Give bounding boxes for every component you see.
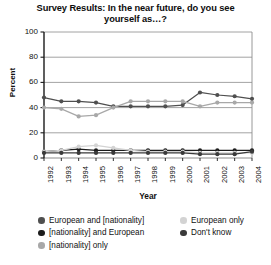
x-tick-label: 1995 bbox=[99, 166, 107, 183]
legend-column-right: European onlyDon't know bbox=[180, 214, 244, 239]
legend-column-left: European and [nationality][nationality] … bbox=[38, 214, 144, 252]
legend-item[interactable]: Don't know bbox=[180, 227, 244, 240]
x-axis-label: Year bbox=[44, 191, 252, 201]
chart-legend: European and [nationality][nationality] … bbox=[0, 214, 271, 262]
x-tick-label: 1994 bbox=[82, 166, 90, 183]
x-tick-label: 2002 bbox=[221, 166, 229, 183]
x-tick-label: 2003 bbox=[238, 166, 246, 183]
x-tick-label: 2000 bbox=[186, 166, 194, 183]
legend-item-label: European and [nationality] bbox=[49, 216, 144, 225]
x-tick-label: 1999 bbox=[169, 166, 177, 183]
legend-marker-icon bbox=[38, 230, 45, 237]
legend-marker-icon bbox=[180, 217, 187, 224]
x-tick-label: 2004 bbox=[255, 166, 263, 183]
x-tick-label: 1998 bbox=[151, 166, 159, 183]
legend-item[interactable]: European and [nationality] bbox=[38, 214, 144, 227]
chart-container: Survey Results: In the near future, do y… bbox=[0, 0, 271, 265]
legend-marker-icon bbox=[38, 217, 45, 224]
legend-item-label: Don't know bbox=[191, 228, 231, 237]
legend-marker-icon bbox=[180, 230, 187, 237]
legend-item-label: [nationality] only bbox=[49, 241, 108, 250]
legend-marker-icon bbox=[38, 242, 45, 249]
legend-item[interactable]: [nationality] and European bbox=[38, 227, 144, 240]
x-tick-label: 1993 bbox=[65, 166, 73, 183]
legend-item-label: [nationality] and European bbox=[49, 228, 144, 237]
legend-item[interactable]: European only bbox=[180, 214, 244, 227]
x-tick-label: 1997 bbox=[134, 166, 142, 183]
x-tick-label: 1992 bbox=[47, 166, 55, 183]
legend-item[interactable]: [nationality] only bbox=[38, 239, 144, 252]
legend-item-label: European only bbox=[191, 216, 244, 225]
x-tick-label: 1996 bbox=[117, 166, 125, 183]
x-tick-label: 2001 bbox=[203, 166, 211, 183]
